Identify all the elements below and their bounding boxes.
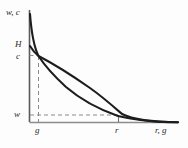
x-axis-label: r, g [155,126,167,135]
y-tick-label-w: w [14,110,20,119]
series-steep-convex-curve [30,14,178,122]
y-tick-label-H: H [15,40,22,49]
y-axis-label: w, c [6,8,20,17]
x-tick-label-r: r [115,126,119,135]
x-tick-label-g: g [35,126,40,135]
figure-root: w, c r, g H c w g r [0,0,188,148]
y-tick-label-c: c [16,52,20,61]
